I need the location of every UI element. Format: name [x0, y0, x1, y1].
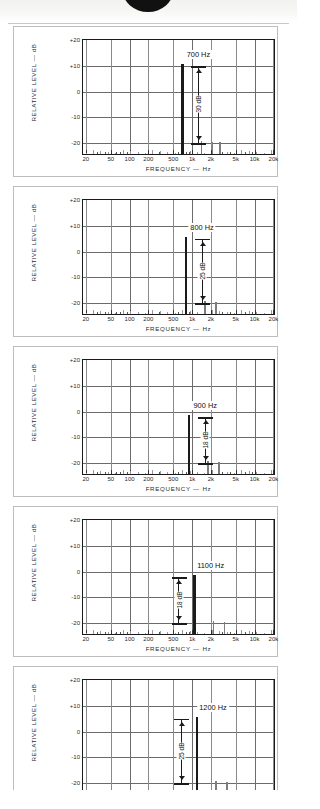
- gridline-vertical: [86, 680, 87, 790]
- noise-floor-tick: [204, 153, 205, 154]
- gridline-vertical: [111, 200, 112, 314]
- x-axis-tick-label: 20: [83, 156, 90, 162]
- noise-floor-tick: [256, 152, 257, 154]
- noise-floor-tick: [86, 633, 87, 634]
- noise-floor-tick: [86, 153, 87, 154]
- noise-floor-tick: [234, 633, 235, 634]
- noise-floor-tick: [160, 311, 161, 314]
- noise-floor-tick: [130, 631, 131, 634]
- x-axis-tick-label: 20k: [269, 156, 279, 162]
- annotation-cap-bottom: [191, 143, 206, 145]
- x-axis-tick-label: 20k: [269, 636, 279, 642]
- noise-floor-tick: [182, 310, 183, 314]
- x-axis-tick-label: 100: [125, 156, 135, 162]
- noise-floor-tick: [227, 472, 228, 474]
- arrow-down-icon: [200, 296, 206, 300]
- noise-floor-tick: [115, 313, 116, 314]
- x-axis-tick-label: 2k: [208, 316, 214, 322]
- arrow-down-icon: [196, 136, 202, 140]
- x-axis-tick-label: 50: [107, 316, 114, 322]
- gridline-vertical: [236, 360, 237, 474]
- annotation-cap-bottom: [172, 623, 187, 625]
- x-axis-minor-tick: [97, 632, 98, 635]
- noise-floor-tick: [264, 153, 265, 154]
- noise-floor-tick: [108, 152, 109, 154]
- x-axis-title: FREQUENCY — Hz: [82, 645, 275, 652]
- noise-floor-tick: [160, 631, 161, 634]
- x-axis-tick-label: 1k: [189, 156, 195, 162]
- noise-floor-tick: [175, 633, 176, 634]
- y-axis-tick-label: 0: [77, 729, 80, 735]
- y-axis-tick-label: -10: [71, 274, 80, 280]
- y-axis-tick-label: -20: [71, 460, 80, 466]
- gridline-vertical: [148, 200, 149, 314]
- gridline-vertical: [273, 40, 274, 154]
- noise-floor-tick: [123, 470, 124, 474]
- y-axis-tick-label: +20: [70, 197, 80, 203]
- noise-floor-tick: [130, 151, 131, 154]
- x-axis-minor-tick: [123, 632, 124, 635]
- gridline-vertical: [173, 360, 174, 474]
- arrow-up-icon: [176, 580, 182, 584]
- noise-floor-tick: [197, 312, 198, 314]
- y-axis-tick-label: 0: [77, 249, 80, 255]
- x-axis-title: FREQUENCY — Hz: [82, 325, 275, 332]
- noise-floor-tick: [249, 311, 250, 314]
- noise-floor-tick: [256, 472, 257, 474]
- x-axis-minor-tick: [230, 312, 231, 315]
- x-axis-minor-tick: [120, 152, 121, 155]
- noise-floor-tick: [145, 473, 146, 474]
- noise-floor-tick: [249, 471, 250, 474]
- chart-title: 1100 Hz: [195, 561, 226, 570]
- chart-title: 800 Hz: [188, 223, 215, 232]
- page-edge-blob-icon: [123, 0, 173, 12]
- x-axis-tick-label: 100: [125, 316, 135, 322]
- gridline-vertical: [130, 360, 131, 474]
- harmonic-bar: [219, 142, 220, 154]
- x-axis-tick-label: 500: [168, 156, 178, 162]
- x-axis-minor-tick: [222, 152, 223, 155]
- y-axis-title: RELATIVE LEVEL — dB: [30, 670, 37, 776]
- x-axis-minor-tick: [105, 632, 106, 635]
- noise-floor-tick: [152, 630, 153, 634]
- gridline-vertical: [273, 520, 274, 634]
- noise-floor-tick: [115, 153, 116, 154]
- noise-floor-tick: [249, 151, 250, 154]
- x-axis-tick-label: 5k: [233, 156, 239, 162]
- noise-floor-tick: [108, 312, 109, 314]
- noise-floor-tick: [100, 631, 101, 634]
- gridline-vertical: [148, 40, 149, 154]
- x-axis-tick-mark: [192, 150, 193, 154]
- gridline-vertical: [192, 200, 193, 314]
- noise-floor-tick: [271, 150, 272, 154]
- y-axis-tick-label: -10: [71, 114, 80, 120]
- noise-floor-tick: [204, 633, 205, 634]
- annotation-cap-bottom: [198, 463, 213, 465]
- x-axis-minor-tick: [245, 632, 246, 635]
- x-axis-minor-tick: [120, 632, 121, 635]
- noise-floor-tick: [115, 473, 116, 474]
- noise-floor-tick: [264, 633, 265, 634]
- x-axis-title: FREQUENCY — Hz: [82, 165, 275, 172]
- x-axis-minor-tick: [230, 152, 231, 155]
- gridline-vertical: [86, 200, 87, 314]
- x-axis-tick-mark: [192, 470, 193, 474]
- x-axis-tick-label: 2k: [208, 636, 214, 642]
- noise-floor-tick: [197, 472, 198, 474]
- db-span-label: 25 dB: [177, 742, 186, 759]
- annotation-cap-top: [172, 577, 187, 579]
- y-axis-tick-label: -10: [71, 434, 80, 440]
- gridline-vertical: [255, 40, 256, 154]
- noise-floor-tick: [175, 313, 176, 314]
- plot-area: +20+100-10-2020501002005001k2k5k10k20k70…: [82, 39, 275, 155]
- x-axis-tick-mark: [236, 310, 237, 314]
- x-axis-minor-tick: [105, 312, 106, 315]
- arrow-up-icon: [203, 420, 209, 424]
- chart-title: 900 Hz: [191, 401, 218, 410]
- x-axis-tick-label: 10k: [250, 156, 260, 162]
- x-axis-minor-tick: [120, 312, 121, 315]
- x-axis-tick-label: 5k: [233, 636, 239, 642]
- x-axis-minor-tick: [252, 312, 253, 315]
- x-axis-minor-tick: [178, 152, 179, 155]
- noise-floor-tick: [241, 630, 242, 634]
